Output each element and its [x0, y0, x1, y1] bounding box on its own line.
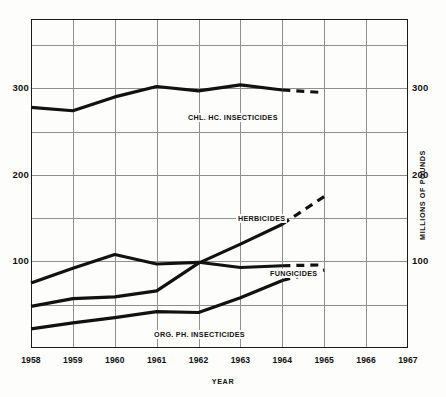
x-gridline [115, 20, 116, 347]
y-gridline [32, 88, 407, 89]
y-tick-label-left: 300 [5, 83, 29, 93]
y-tick-label-left: 100 [5, 256, 29, 266]
series-label-herbicides: HERBICIDES [236, 214, 287, 223]
y-tick-label-left: 200 [5, 170, 29, 180]
x-gridline [157, 20, 158, 347]
y-gridline [32, 305, 407, 306]
x-gridline [199, 20, 200, 347]
series-label-org-ph: ORG. PH. INSECTICIDES [152, 330, 247, 339]
x-gridline [282, 20, 283, 347]
chart-figure: 300200100 300200100 19581959196019611962… [0, 0, 446, 397]
y-axis-title: MILLIONS OF POUNDS [418, 150, 427, 240]
x-tick-label: 1963 [223, 356, 257, 365]
x-tick-label: 1960 [98, 356, 132, 365]
x-tick-label: 1964 [265, 356, 299, 365]
y-tick-label-right: 100 [412, 256, 436, 266]
y-gridline [32, 45, 407, 46]
x-tick-label: 1965 [307, 356, 341, 365]
x-tick-label: 1966 [349, 356, 383, 365]
plot-area [31, 19, 408, 348]
series-label-fungicides: FUNGICIDES [268, 269, 319, 278]
x-gridline [240, 20, 241, 347]
x-gridline [366, 20, 367, 347]
x-tick-label: 1961 [140, 356, 174, 365]
x-tick-label: 1967 [391, 356, 425, 365]
y-gridline [32, 175, 407, 176]
x-tick-label: 1959 [56, 356, 90, 365]
x-axis-title: YEAR [0, 377, 446, 386]
x-tick-label: 1958 [14, 356, 48, 365]
x-gridline [324, 20, 325, 347]
y-gridline [32, 132, 407, 133]
y-tick-label-right: 300 [412, 83, 436, 93]
series-label-chl-hc: CHL. HC. INSECTICIDES [186, 113, 280, 122]
y-gridline [32, 261, 407, 262]
x-tick-label: 1962 [182, 356, 216, 365]
y-gridline [32, 218, 407, 219]
x-gridline [73, 20, 74, 347]
